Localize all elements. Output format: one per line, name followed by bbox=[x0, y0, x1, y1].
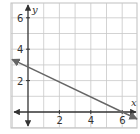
y-tick-label-2: 2 bbox=[17, 76, 23, 87]
x-tick-label-2: 2 bbox=[56, 115, 62, 126]
y-tick-label-6: 6 bbox=[17, 13, 23, 24]
y-tick-label-4: 4 bbox=[17, 44, 23, 55]
x-axis-label: x bbox=[131, 97, 137, 108]
x-tick-label-4: 4 bbox=[88, 115, 94, 126]
coordinate-plane: 2 4 6 2 4 6 x y bbox=[0, 0, 140, 134]
x-tick-label-6: 6 bbox=[119, 115, 125, 126]
y-axis-label: y bbox=[31, 4, 38, 15]
